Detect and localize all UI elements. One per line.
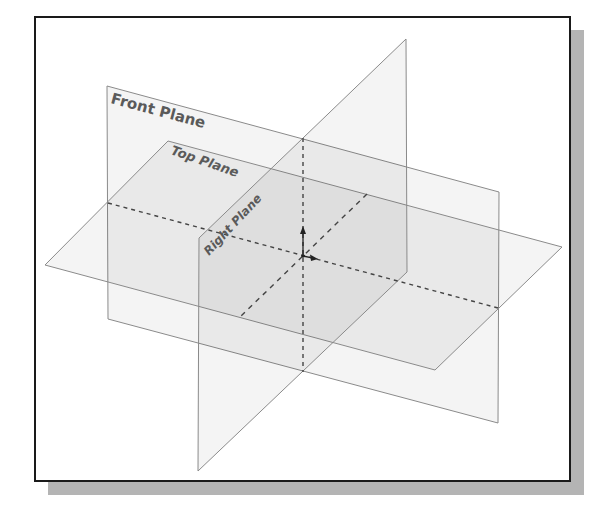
reference-planes-diagram: Front Plane Top Plane Right Plane xyxy=(0,0,609,519)
origin-point xyxy=(301,254,305,258)
